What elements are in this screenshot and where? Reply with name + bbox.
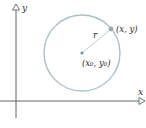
point-label: (x, y) [116, 24, 138, 34]
radius-label: r [93, 30, 98, 40]
x-axis-label: x [138, 87, 143, 97]
circle-diagram: y x r (x₀, y₀) (x, y) [0, 0, 146, 128]
x-axis-arrow-icon [139, 98, 145, 105]
center-label: (x₀, y₀) [82, 58, 110, 68]
y-axis-arrow-icon [13, 4, 20, 10]
circle-point [109, 27, 114, 32]
y-axis-label: y [21, 3, 28, 13]
center-point [80, 51, 83, 54]
